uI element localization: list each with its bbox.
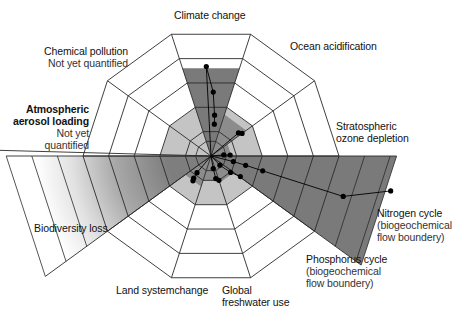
label-ozone-line1: Stratospheric (336, 120, 397, 132)
label-aerosol-line2: aerosol loading (13, 115, 89, 127)
label-biodiversity-loss: Biodiversity loss (34, 222, 108, 234)
label-freshwater-line2: freshwater use (222, 296, 289, 308)
label-phosphorus-line2: (biogeochemical (306, 265, 381, 277)
label-land-system-change: Land systemchange (116, 284, 208, 296)
wedge-biodiversity-loss (6, 156, 211, 276)
data-point-climate-change (212, 113, 217, 118)
data-point-phosphorus-cycle (238, 174, 243, 179)
data-point-nitrogen-cycle (341, 194, 346, 199)
wedge-nitrogen-cycle (211, 156, 397, 265)
data-point-nitrogen-cycle (231, 159, 236, 164)
label-ozone-line2: ozone depletion (336, 132, 409, 144)
data-point-global-freshwater (216, 178, 221, 183)
label-climate-change: Climate change (174, 9, 246, 21)
data-point-ocean-acidification (239, 131, 244, 136)
label-aerosol-line4: quantified (44, 139, 89, 151)
boundary-wedges (6, 68, 396, 276)
data-point-stratospheric-ozone (228, 152, 233, 157)
label-nitrogen-line3: flow boundery) (377, 231, 444, 243)
data-point-phosphorus-cycle (217, 163, 222, 168)
label-nitrogen-line2: (biogeochemical (377, 219, 452, 231)
data-point-climate-change (204, 64, 209, 69)
data-point-climate-change (212, 122, 217, 127)
label-chemical-line2: Not yet quantified (48, 57, 128, 69)
label-aerosol-line1: Atmospheric (26, 103, 89, 115)
label-phosphorus-line1: Phosphorus cycle (306, 253, 387, 265)
label-chemical-line1: Chemical pollution (44, 45, 128, 57)
data-point-climate-change (211, 89, 216, 94)
data-point-land-system-change (194, 170, 199, 175)
label-ocean-acidification: Ocean acidification (290, 40, 377, 52)
data-point-nitrogen-cycle (260, 168, 265, 173)
label-phosphorus-line3: flow boundery) (306, 277, 373, 289)
label-freshwater-line1: Global (222, 284, 252, 296)
data-point-nitrogen-cycle (243, 163, 248, 168)
data-point-phosphorus-cycle (228, 170, 233, 175)
data-point-nitrogen-cycle (388, 188, 393, 193)
label-aerosol-line3: Not yet (56, 127, 89, 139)
data-point-stratospheric-ozone (221, 152, 226, 157)
data-point-global-freshwater (211, 166, 216, 171)
label-nitrogen-line1: Nitrogen cycle (377, 207, 442, 219)
data-point-land-system-change (190, 178, 195, 183)
